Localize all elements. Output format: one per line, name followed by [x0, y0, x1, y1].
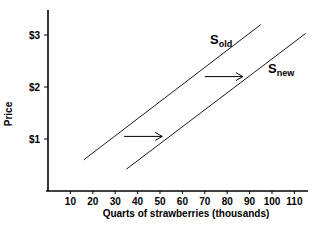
y-axis-label: Price: [3, 101, 14, 126]
curve-label: Sold: [210, 32, 232, 49]
x-tick-label: 60: [177, 196, 189, 207]
supply-shift-chart: 102030405060708090100110$1$2$3 SoldSnew …: [0, 0, 321, 235]
x-tick-label: 110: [286, 196, 303, 207]
y-tick-label: $1: [29, 134, 41, 145]
y-tick-label: $3: [29, 30, 41, 41]
x-tick-label: 80: [222, 196, 234, 207]
curve-label: Snew: [268, 61, 295, 78]
x-tick-label: 10: [65, 196, 77, 207]
y-tick-label: $2: [29, 82, 41, 93]
shift-arrows: [124, 73, 243, 141]
x-tick-label: 30: [110, 196, 122, 207]
x-tick-label: 100: [264, 196, 281, 207]
x-tick-label: 20: [87, 196, 99, 207]
x-axis-label: Quarts of strawberries (thousands): [103, 208, 270, 219]
x-tick-label: 70: [199, 196, 211, 207]
x-tick-label: 40: [132, 196, 144, 207]
axes: 102030405060708090100110$1$2$3: [29, 10, 308, 207]
x-tick-label: 90: [244, 196, 256, 207]
curve-s-new: [126, 33, 305, 169]
x-tick-label: 50: [154, 196, 166, 207]
curve-s-old: [84, 25, 261, 160]
supply-curves: SoldSnew: [84, 25, 306, 170]
